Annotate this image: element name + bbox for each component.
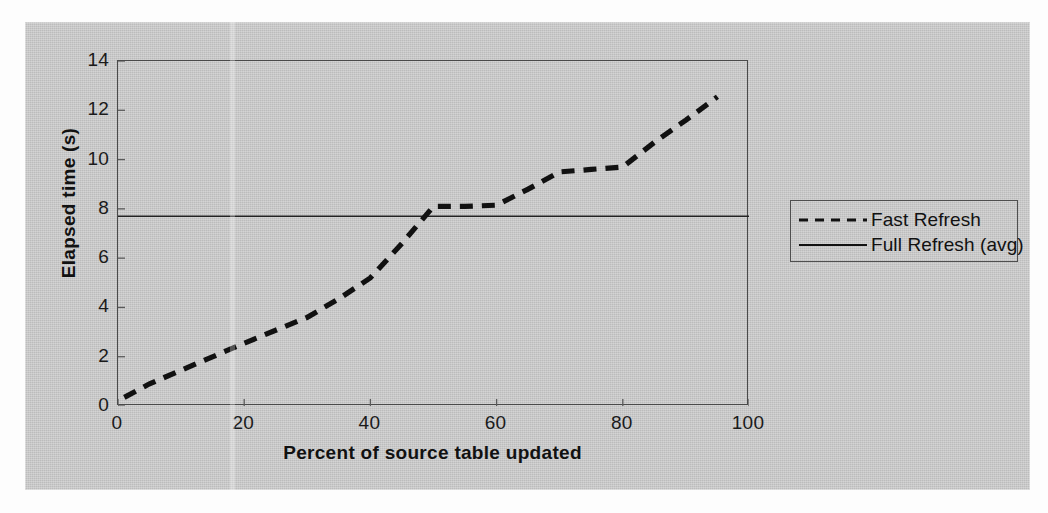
solid-line-icon	[797, 238, 869, 252]
chart-legend: Fast Refresh Full Refresh (avg)	[790, 200, 1018, 262]
y-tick-0: 0	[98, 394, 109, 416]
plot-canvas	[118, 61, 749, 406]
y-tick-6: 6	[98, 246, 109, 268]
y-tick-10: 10	[87, 148, 109, 170]
plot-area	[117, 60, 748, 405]
legend-item-fast-refresh: Fast Refresh	[797, 207, 1009, 232]
y-tick-4: 4	[98, 295, 109, 317]
legend-label-fast-refresh: Fast Refresh	[869, 209, 981, 231]
y-tick-14: 14	[87, 49, 109, 71]
series-fast-refresh-line	[124, 97, 717, 398]
x-tick-0: 0	[112, 412, 123, 434]
x-tick-20: 20	[232, 412, 254, 434]
y-axis-tick-labels: 14 12 10 8 6 4 2 0	[63, 60, 109, 405]
y-tick-12: 12	[87, 98, 109, 120]
legend-item-full-refresh: Full Refresh (avg)	[797, 232, 1009, 257]
figure-page: Elapsed time (s) 14 12 10 8 6 4 2 0 0 20…	[0, 0, 1048, 513]
legend-label-full-refresh: Full Refresh (avg)	[869, 234, 1024, 256]
dashed-line-icon	[797, 213, 869, 227]
chart-panel: Elapsed time (s) 14 12 10 8 6 4 2 0 0 20…	[25, 22, 1030, 490]
x-tick-40: 40	[359, 412, 381, 434]
x-axis-tick-labels: 0 20 40 60 80 100	[117, 412, 748, 440]
x-tick-80: 80	[611, 412, 633, 434]
x-tick-100: 100	[732, 412, 764, 434]
y-tick-8: 8	[98, 197, 109, 219]
x-tick-60: 60	[485, 412, 507, 434]
x-axis-title: Percent of source table updated	[117, 442, 748, 464]
y-tick-2: 2	[98, 345, 109, 367]
